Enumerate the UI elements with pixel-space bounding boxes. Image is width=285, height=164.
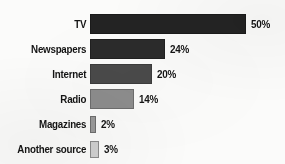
bar-track-newspapers: 24% [90, 39, 285, 59]
value-label-radio: 14% [139, 94, 158, 105]
table-row: Internet 20% [0, 64, 285, 84]
table-row: Newspapers 24% [0, 39, 285, 59]
bar-track-magazines: 2% [90, 114, 285, 134]
category-label-internet: Internet [6, 69, 90, 80]
bar-track-internet: 20% [90, 64, 285, 84]
bar-rows: TV 50% Newspapers 24% Internet 20% Radio [0, 14, 285, 164]
bar-magazines [90, 116, 96, 133]
bar-track-tv: 50% [90, 14, 285, 34]
category-label-magazines: Magazines [6, 119, 90, 130]
category-label-newspapers: Newspapers [6, 44, 90, 55]
bar-another-source [90, 141, 99, 158]
value-label-magazines: 2% [101, 119, 115, 130]
value-label-internet: 20% [157, 69, 176, 80]
bar-track-radio: 14% [90, 89, 285, 109]
value-label-another-source: 3% [104, 144, 118, 155]
table-row: Radio 14% [0, 89, 285, 109]
category-label-tv: TV [6, 19, 90, 30]
table-row: TV 50% [0, 14, 285, 34]
table-row: Another source 3% [0, 139, 285, 159]
table-row: Magazines 2% [0, 114, 285, 134]
value-label-tv: 50% [251, 19, 270, 30]
bar-internet [90, 64, 152, 84]
bar-track-another-source: 3% [90, 139, 285, 159]
bar-chart: TV 50% Newspapers 24% Internet 20% Radio [0, 0, 285, 164]
bar-newspapers [90, 39, 165, 59]
value-label-newspapers: 24% [170, 44, 189, 55]
bar-tv [90, 14, 246, 34]
category-label-another-source: Another source [6, 144, 90, 155]
category-label-radio: Radio [6, 94, 90, 105]
bar-radio [90, 89, 134, 109]
